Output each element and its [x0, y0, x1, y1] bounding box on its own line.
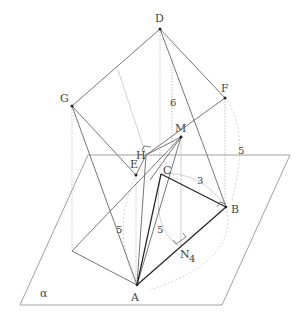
label-f: F — [221, 82, 229, 95]
label-c: C — [163, 164, 171, 177]
point-labels: D G F M H E C B A N α — [40, 12, 239, 304]
point-g — [71, 105, 74, 108]
label-d: D — [155, 12, 164, 25]
label-a: A — [130, 291, 140, 304]
right-angle-marks — [142, 146, 226, 244]
point-e — [135, 174, 138, 177]
label-plane-alpha: α — [40, 287, 48, 300]
figure-canvas: D G F M H E C B A N α 6 5 3 5 5 4 — [0, 0, 307, 321]
label-g: G — [60, 92, 69, 105]
geometry-figure: D G F M H E C B A N α 6 5 3 5 5 4 — [0, 0, 307, 321]
label-b: B — [231, 203, 239, 216]
measure-5-top: 5 — [238, 145, 244, 156]
plane-alpha — [20, 155, 290, 305]
triangle-abc — [137, 174, 226, 285]
measure-6: 6 — [170, 97, 176, 108]
point-a — [136, 284, 139, 287]
edges — [72, 29, 226, 285]
label-m: M — [175, 122, 186, 135]
point-f — [224, 97, 227, 100]
measure-5-mid: 5 — [157, 224, 163, 235]
point-b — [225, 206, 228, 209]
measure-3: 3 — [197, 175, 203, 186]
point-m — [180, 136, 183, 139]
measure-5-left: 5 — [116, 224, 122, 235]
points — [71, 28, 228, 287]
label-e: E — [130, 158, 138, 171]
point-d — [159, 28, 162, 31]
measure-4: 4 — [189, 253, 195, 264]
